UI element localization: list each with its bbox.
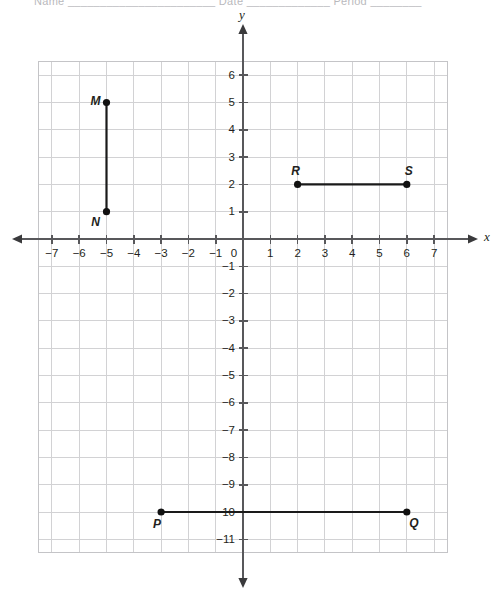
axes: [12, 24, 478, 588]
x-axis-tick-label: −7: [45, 247, 58, 259]
point-label-q: Q: [409, 516, 419, 530]
x-axis-tick-label: 3: [322, 247, 328, 259]
y-axis-tick-label: −8: [222, 451, 235, 463]
y-axis-tick-label: −11: [216, 533, 235, 545]
y-axis-tick-label: 1: [229, 205, 235, 217]
y-axis-down-arrow-icon: [238, 578, 247, 588]
y-axis-tick-label: −7: [222, 424, 235, 436]
x-axis-tick-label: −6: [73, 247, 86, 259]
plot-point-m: [103, 99, 110, 106]
y-axis-tick-label: −1: [222, 260, 235, 272]
plotted-segments: [107, 103, 407, 513]
x-axis-tick-label: −5: [100, 247, 113, 259]
axis-tick-labels: −7−6−5−4−3−2−101234567654321−1−2−3−4−5−6…: [45, 69, 437, 545]
point-label-r: R: [291, 164, 300, 178]
y-axis-tick-label: 6: [229, 69, 235, 81]
point-label-s: S: [405, 164, 413, 178]
plotted-points: [103, 99, 411, 516]
x-axis-tick-label: 4: [349, 247, 356, 259]
coordinate-plane-svg: −7−6−5−4−3−2−101234567654321−1−2−3−4−5−6…: [0, 0, 502, 600]
y-axis-tick-label: 2: [229, 178, 235, 190]
plot-point-n: [103, 208, 110, 215]
x-axis-tick-label: −2: [182, 247, 195, 259]
plot-point-q: [403, 508, 410, 515]
y-axis-tick-label: −3: [222, 314, 235, 326]
plot-point-p: [158, 508, 165, 515]
y-axis-up-arrow-icon: [238, 24, 247, 34]
x-axis-tick-label: 5: [376, 247, 382, 259]
x-axis-tick-label: −3: [155, 247, 168, 259]
x-axis-name: x: [483, 229, 490, 244]
x-axis-tick-label: 2: [294, 247, 300, 259]
y-axis-tick-label: 5: [229, 96, 235, 108]
point-label-m: M: [91, 94, 102, 108]
y-axis-name: y: [237, 7, 245, 22]
x-axis-tick-label: 7: [431, 247, 437, 259]
plot-point-r: [294, 181, 301, 188]
x-axis-tick-label: −1: [209, 247, 222, 259]
y-axis-tick-label: −9: [222, 478, 235, 490]
coordinate-plane-figure: −7−6−5−4−3−2−101234567654321−1−2−3−4−5−6…: [0, 0, 502, 600]
axis-names: xy: [237, 7, 490, 244]
y-axis-tick-label: −2: [222, 287, 235, 299]
y-axis-tick-label: −5: [222, 369, 235, 381]
x-axis-right-arrow-icon: [468, 234, 478, 243]
origin-label: 0: [231, 247, 237, 259]
x-axis-tick-label: 1: [267, 247, 273, 259]
x-axis-tick-label: 6: [404, 247, 410, 259]
plot-point-s: [403, 181, 410, 188]
y-axis-tick-label: −6: [222, 396, 235, 408]
y-axis-tick-label: 4: [229, 123, 236, 135]
point-label-n: N: [91, 215, 100, 229]
y-axis-tick-label: 3: [229, 151, 235, 163]
point-labels: MNRSPQ: [91, 94, 420, 532]
point-label-p: P: [153, 517, 162, 531]
y-axis-tick-label: −4: [222, 342, 236, 354]
x-axis-left-arrow-icon: [12, 234, 22, 243]
x-axis-tick-label: −4: [127, 247, 141, 259]
